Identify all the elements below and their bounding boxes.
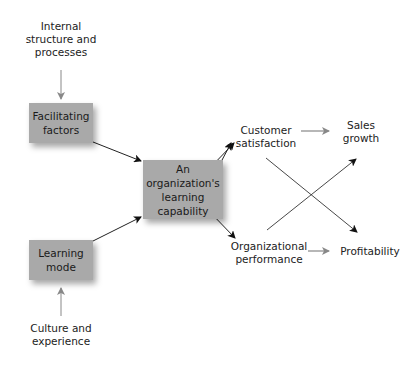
input-internal-structure: Internal structure and processes — [11, 20, 111, 59]
box-learning-capability: An organization's learning capability — [143, 160, 223, 219]
outcome-profitability-text: Profitability — [340, 245, 400, 257]
outcome-organizational-performance: Organizational performance — [229, 240, 309, 266]
outcome-profitability: Profitability — [334, 245, 406, 258]
input-internal-structure-text: Internal structure and processes — [26, 20, 97, 58]
box-facilitating-factors-text: Facilitating factors — [33, 109, 90, 137]
arrow-facilitating-to-central — [93, 142, 141, 161]
outcome-sales-growth: Sales growth — [336, 119, 386, 145]
box-learning-mode: Learning mode — [29, 240, 93, 280]
outcome-organizational-performance-text: Organizational performance — [231, 240, 307, 265]
box-learning-capability-text: An organization's learning capability — [143, 162, 223, 218]
box-facilitating-factors: Facilitating factors — [29, 103, 93, 143]
arrow-learning-mode-to-central — [93, 217, 141, 241]
outcome-sales-growth-text: Sales growth — [343, 119, 380, 144]
outcome-customer-satisfaction: Customer satisfaction — [231, 124, 301, 150]
outcome-customer-satisfaction-text: Customer satisfaction — [236, 124, 296, 149]
input-culture-experience-text: Culture and experience — [30, 322, 91, 347]
input-culture-experience: Culture and experience — [11, 322, 111, 348]
box-learning-mode-text: Learning mode — [38, 246, 84, 274]
